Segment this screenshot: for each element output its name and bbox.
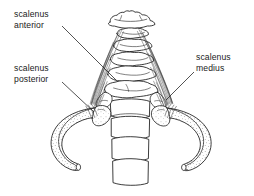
label-scalenus-anterior-line2: anterior bbox=[14, 20, 49, 31]
label-scalenus-anterior: scalenus anterior bbox=[14, 9, 49, 31]
leader-line-medius bbox=[166, 72, 194, 100]
vertebral-column bbox=[96, 11, 166, 186]
cervical-vertebra-c7 bbox=[105, 81, 158, 98]
label-scalenus-posterior: scalenus posterior bbox=[14, 63, 49, 85]
thoracic-vertebral-bodies bbox=[111, 99, 150, 185]
anatomy-figure: scalenus anterior scalenus posterior sca… bbox=[0, 0, 254, 196]
label-scalenus-medius-line1: scalenus bbox=[196, 52, 231, 62]
cervical-vertebra-c3 bbox=[117, 28, 148, 39]
rib-vertebra-junction-right bbox=[151, 106, 169, 126]
first-rib-right bbox=[164, 108, 211, 171]
leader-line-posterior bbox=[62, 82, 94, 112]
leader-line-anterior bbox=[62, 26, 116, 80]
label-scalenus-anterior-line1: scalenus bbox=[14, 9, 49, 19]
label-scalenus-posterior-line1: scalenus bbox=[14, 63, 49, 73]
atlas-vertebra bbox=[108, 11, 155, 29]
label-scalenus-posterior-line2: posterior bbox=[14, 74, 49, 85]
label-scalenus-medius-line2: medius bbox=[196, 63, 231, 74]
first-rib-left bbox=[51, 108, 98, 171]
label-scalenus-medius: scalenus medius bbox=[196, 52, 231, 74]
rib-vertebra-junction-left bbox=[92, 105, 110, 125]
cervical-vertebra-c5 bbox=[110, 52, 153, 66]
